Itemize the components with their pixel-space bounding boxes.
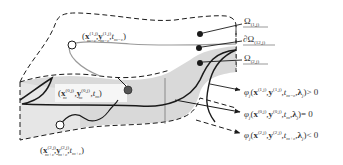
- region-label-omega-1: Ω(1,j): [244, 16, 260, 28]
- svg-text:φj(x(2,j),y(2,j),tm+ε,λj)< 0: φj(x(2,j),y(2,j),tm+ε,λj)< 0: [244, 130, 319, 141]
- svg-text:φj(x(1,j),y(1,j),tm−ε,λj)> 0: φj(x(1,j),y(1,j),tm−ε,λj)> 0: [244, 87, 319, 98]
- domain-diagram: (x(1,j)m−ε,y(1,j)m−ε,tm−ε) (x(0,j)m,y(0,…: [0, 0, 343, 165]
- middle-point-marker: [124, 86, 132, 94]
- lower-point-label: (x(2,j)m+ε,y(2,j)m+ε,tm+ε): [40, 145, 84, 157]
- lower-point-marker: [56, 121, 64, 129]
- upper-grey-trajectory-drop: [69, 45, 100, 76]
- region-dot-boundary: [196, 45, 202, 51]
- condition-positive: φj(x(1,j),y(1,j),tm−ε,λj)> 0: [244, 87, 319, 98]
- arrow-condition-negative: [196, 120, 240, 133]
- region-dot-omega-2: [197, 60, 203, 66]
- upper-point-label: (x(1,j)m−ε,y(1,j)m−ε,tm−ε): [82, 31, 126, 43]
- upper-point-marker: [68, 41, 76, 49]
- condition-negative: φj(x(2,j),y(2,j),tm+ε,λj)< 0: [244, 130, 319, 141]
- condition-zero: φj(x(0,j),y(0,j),tm,λj)= 0: [244, 109, 313, 120]
- arrow-condition-positive: [210, 84, 240, 90]
- region-label-boundary: ∂Ω(12,j): [243, 34, 265, 46]
- svg-text:φj(x(0,j),y(0,j),tm,λj)= 0: φj(x(0,j),y(0,j),tm,λj)= 0: [244, 109, 313, 120]
- region-label-omega-2: Ω(2,j): [244, 53, 260, 65]
- region-dot-omega-1: [197, 31, 203, 37]
